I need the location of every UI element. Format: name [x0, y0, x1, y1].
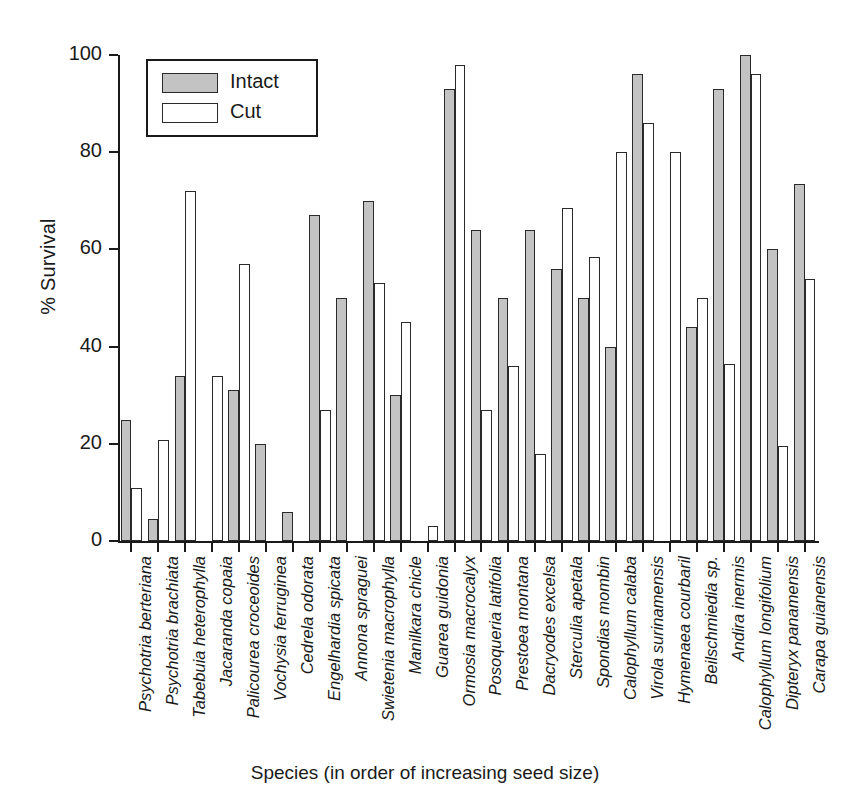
bar-intact-4: [228, 390, 239, 541]
x-tick-5: [265, 543, 267, 552]
bar-cut-20: [670, 152, 681, 541]
x-tick-4: [238, 543, 240, 552]
x-tick-17: [588, 543, 590, 552]
bar-cut-13: [481, 410, 492, 541]
y-tick-100: 100: [109, 54, 118, 56]
x-tick-13: [480, 543, 482, 552]
x-tick-7: [319, 543, 321, 552]
x-axis-label: Dacryodes excelsa: [540, 556, 559, 695]
x-axis-title: Species (in order of increasing seed siz…: [0, 762, 850, 784]
y-tick-0: 0: [109, 540, 118, 542]
x-axis-line: [118, 541, 819, 543]
legend-label: Cut: [230, 100, 261, 123]
x-tick-6: [292, 543, 294, 552]
legend-swatch-cut: [162, 103, 218, 123]
bar-cut-2: [185, 191, 196, 541]
x-tick-20: [669, 543, 671, 552]
bar-cut-22: [724, 364, 735, 541]
x-axis-label: Virola surinamensis: [648, 556, 667, 700]
x-axis-label: Jacaranda copaia: [217, 556, 236, 686]
x-axis-label: Annona spraguei: [352, 556, 371, 681]
bar-cut-24: [778, 446, 789, 541]
y-axis-line: [118, 55, 120, 542]
y-tick-label: 100: [69, 42, 102, 65]
x-axis-label: Dipteryx panamensis: [783, 556, 802, 710]
bar-intact-15: [525, 230, 536, 541]
x-tick-3: [211, 543, 213, 552]
bar-intact-18: [605, 347, 616, 541]
bar-intact-25: [794, 184, 805, 541]
x-axis-label: Posoqueria latifolia: [486, 556, 505, 695]
x-tick-0: [130, 543, 132, 552]
bar-cut-15: [535, 454, 546, 541]
bar-cut-10: [401, 322, 412, 541]
y-tick-20: 20: [109, 443, 118, 445]
x-axis-label: Vochysia ferruginea: [271, 556, 290, 701]
bar-cut-9: [374, 283, 385, 541]
y-tick-80: 80: [109, 151, 118, 153]
bar-intact-0: [121, 420, 132, 542]
bar-cut-19: [643, 123, 654, 541]
bar-intact-8: [336, 298, 347, 541]
x-tick-12: [454, 543, 456, 552]
bar-cut-18: [616, 152, 627, 541]
bar-cut-25: [805, 279, 816, 541]
x-axis-label: Psychotria brachiata: [163, 556, 182, 706]
bar-intact-2: [175, 376, 186, 541]
bar-cut-11: [428, 526, 439, 541]
bar-intact-21: [686, 327, 697, 541]
x-axis-label: Calophyllum longifolium: [756, 556, 775, 730]
y-tick-label: 0: [91, 528, 102, 551]
bar-intact-14: [498, 298, 509, 541]
bar-intact-19: [632, 74, 643, 541]
x-tick-16: [561, 543, 563, 552]
bar-intact-23: [740, 55, 751, 541]
x-axis-label: Swietenia macrophylla: [379, 556, 398, 721]
x-tick-15: [534, 543, 536, 552]
bar-cut-14: [508, 366, 519, 541]
bar-intact-24: [767, 249, 778, 541]
x-tick-2: [184, 543, 186, 552]
x-axis-label: Engelhardia spicata: [325, 556, 344, 701]
x-axis-label: Carapa guianensis: [810, 556, 829, 694]
bar-cut-23: [751, 74, 762, 541]
legend-label: Intact: [230, 70, 279, 93]
x-tick-25: [804, 543, 806, 552]
x-tick-18: [615, 543, 617, 552]
bar-intact-5: [255, 444, 266, 541]
bar-intact-9: [363, 201, 374, 541]
bar-cut-0: [131, 488, 142, 541]
x-tick-14: [507, 543, 509, 552]
y-tick-40: 40: [109, 346, 118, 348]
bar-intact-7: [309, 215, 320, 541]
x-axis-label: Andira inermis: [729, 556, 748, 661]
bar-intact-22: [713, 89, 724, 541]
x-axis-label: Palicourea croceoides: [244, 556, 263, 718]
bar-intact-10: [390, 395, 401, 541]
bar-intact-1: [148, 519, 159, 541]
x-axis-label: Spondias mombin: [594, 556, 613, 688]
x-axis-label: Hymenaea courbaril: [675, 556, 694, 704]
bar-cut-1: [158, 440, 169, 541]
bar-cut-21: [697, 298, 708, 541]
x-tick-9: [373, 543, 375, 552]
x-axis-label: Guarea guidonia: [433, 556, 452, 678]
x-axis-label: Prestoea montana: [513, 556, 532, 691]
x-axis-label: Ormosia macrocalyx: [460, 556, 479, 706]
y-axis-title: % Survival: [37, 157, 60, 377]
bar-intact-13: [471, 230, 482, 541]
x-axis-labels: Psychotria berterianaPsychotria brachiat…: [118, 556, 818, 756]
y-tick-label: 80: [80, 139, 102, 162]
x-axis-label: Manilkara chicle: [406, 556, 425, 674]
x-tick-24: [777, 543, 779, 552]
y-tick-label: 20: [80, 431, 102, 454]
bar-cut-17: [589, 257, 600, 541]
chart-legend: IntactCut: [146, 59, 318, 137]
bar-cut-7: [320, 410, 331, 541]
x-axis-label: Beilschmiedia sp.: [702, 556, 721, 684]
x-tick-23: [750, 543, 752, 552]
x-tick-11: [427, 543, 429, 552]
bar-intact-17: [578, 298, 589, 541]
y-tick-label: 60: [80, 236, 102, 259]
chart-figure: % Survival 020406080100 Psychotria berte…: [0, 0, 850, 811]
